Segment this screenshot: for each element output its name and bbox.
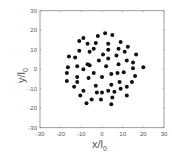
data-point xyxy=(122,70,126,74)
data-point xyxy=(88,63,92,67)
data-point xyxy=(66,65,70,69)
x-tick-label: 30 xyxy=(161,131,168,137)
data-point xyxy=(106,56,110,60)
scatter-chart: -30-20-100102030-30-20-100102030 x/l0 y/… xyxy=(0,0,172,161)
data-point xyxy=(118,80,122,84)
data-point xyxy=(116,71,120,75)
data-point xyxy=(95,91,99,95)
y-tick-label: 20 xyxy=(30,27,37,33)
x-axis-label: x/l0 xyxy=(92,138,107,152)
data-point xyxy=(119,40,123,44)
x-tick-label: -10 xyxy=(77,131,86,137)
data-point xyxy=(112,90,116,94)
data-point xyxy=(134,53,138,57)
y-tick-label: -20 xyxy=(28,105,37,111)
data-point xyxy=(117,47,121,51)
x-tick-label: -30 xyxy=(36,131,45,137)
plot-frame xyxy=(40,11,164,128)
x-tick-label: 20 xyxy=(140,131,147,137)
data-point xyxy=(133,74,137,78)
data-point xyxy=(81,67,85,71)
data-point xyxy=(77,39,81,43)
data-point xyxy=(81,36,85,40)
data-point xyxy=(106,48,110,52)
data-point xyxy=(109,83,113,87)
data-point xyxy=(92,71,96,75)
data-point xyxy=(104,64,108,68)
data-point xyxy=(94,84,98,88)
data-point xyxy=(130,80,134,84)
data-point xyxy=(86,42,90,46)
data-point xyxy=(85,101,89,105)
data-point xyxy=(141,65,145,69)
data-point xyxy=(110,33,114,37)
data-point xyxy=(78,94,82,98)
data-point xyxy=(73,56,77,60)
data-point xyxy=(126,45,130,49)
data-point xyxy=(75,80,79,84)
data-point xyxy=(87,76,91,80)
data-point xyxy=(114,54,118,58)
y-tick-label: 10 xyxy=(30,47,37,53)
data-point xyxy=(106,89,110,93)
data-point xyxy=(65,79,69,83)
data-point xyxy=(81,89,85,93)
data-point xyxy=(110,95,114,99)
data-point xyxy=(106,42,110,46)
data-point xyxy=(100,75,104,79)
x-tick-label: -20 xyxy=(56,131,65,137)
data-point xyxy=(119,87,123,91)
data-point xyxy=(75,75,79,79)
data-point xyxy=(117,62,121,66)
data-point xyxy=(123,50,127,54)
data-point xyxy=(94,41,98,45)
data-point xyxy=(92,47,96,51)
data-point xyxy=(131,60,135,64)
y-tick-label: 0 xyxy=(34,66,38,72)
data-point xyxy=(131,66,135,70)
data-point xyxy=(96,34,100,38)
data-point xyxy=(75,64,79,68)
data-point xyxy=(77,49,81,53)
data-point xyxy=(99,97,103,101)
x-tick-label: 10 xyxy=(119,131,126,137)
y-tick-label: 30 xyxy=(30,8,37,14)
data-point xyxy=(101,53,105,57)
y-axis-label: y/l0 xyxy=(15,68,29,83)
data-point xyxy=(109,72,113,76)
data-point xyxy=(125,94,129,98)
data-point xyxy=(103,31,107,35)
data-point xyxy=(65,71,69,75)
data-point xyxy=(125,58,129,62)
data-point xyxy=(97,58,101,62)
data-point xyxy=(125,85,129,89)
data-point xyxy=(90,97,94,101)
y-tick-label: -30 xyxy=(28,125,37,131)
x-tick-label: 0 xyxy=(100,131,104,137)
y-tick-label: -10 xyxy=(28,86,37,92)
data-point xyxy=(72,85,76,89)
data-point xyxy=(109,102,113,106)
data-point xyxy=(100,91,104,95)
data-point xyxy=(67,55,71,59)
data-point xyxy=(88,50,92,54)
